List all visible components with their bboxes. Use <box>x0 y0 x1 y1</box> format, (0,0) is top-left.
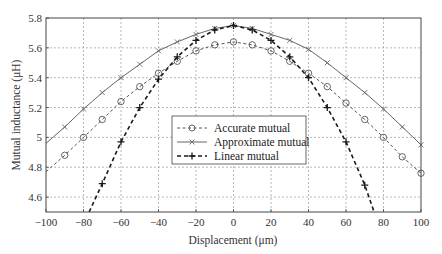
x-tick-label: −60 <box>112 216 130 228</box>
x-marker-icon <box>400 124 405 129</box>
x-marker-icon <box>362 90 367 95</box>
plus-marker-icon <box>361 182 368 189</box>
y-tick-label: 5.4 <box>28 72 42 84</box>
x-marker-icon <box>156 48 161 53</box>
x-marker-icon <box>287 38 292 43</box>
x-tick-label: −80 <box>75 216 93 228</box>
x-tick-label: 0 <box>231 216 237 228</box>
plus-marker-icon <box>324 104 331 111</box>
circle-marker-icon <box>99 116 105 122</box>
plus-marker-icon <box>343 138 350 145</box>
x-tick-label: 80 <box>378 216 390 228</box>
plus-marker-icon <box>118 138 125 145</box>
y-tick-label: 5.8 <box>28 12 42 24</box>
line-chart: −100−80−60−40−20020406080100 4.64.855.25… <box>0 0 442 254</box>
plus-marker-icon <box>155 76 162 83</box>
y-tick-label: 5.2 <box>28 102 42 114</box>
x-tick-label: 100 <box>413 216 430 228</box>
plus-marker-icon <box>211 26 218 33</box>
x-tick-label: −100 <box>35 216 58 228</box>
x-tick-label: 60 <box>341 216 353 228</box>
y-tick-label: 4.6 <box>28 191 42 203</box>
legend-label-approximate: Approximate mutual <box>214 136 310 149</box>
legend: Accurate mutual Approximate mutual Linea… <box>172 116 310 164</box>
x-marker-icon <box>137 62 142 67</box>
x-marker-icon <box>194 32 199 37</box>
legend-label-linear: Linear mutual <box>214 150 279 162</box>
plus-marker-icon <box>193 37 200 44</box>
x-axis-label: Displacement (μm) <box>189 234 278 247</box>
x-marker-icon <box>325 60 330 65</box>
x-marker-icon <box>269 32 274 37</box>
x-tick-label: 40 <box>303 216 315 228</box>
x-tick-label: −40 <box>150 216 168 228</box>
plus-marker-icon <box>99 180 106 187</box>
y-tick-label: 5 <box>37 131 43 143</box>
x-tick-label: −20 <box>187 216 205 228</box>
y-axis-label: Mutual inductance (μH) <box>10 59 23 170</box>
plus-marker-icon <box>249 26 256 33</box>
legend-label-accurate: Accurate mutual <box>214 122 290 134</box>
x-marker-icon <box>100 90 105 95</box>
y-tick-label: 5.6 <box>28 42 42 54</box>
y-tick-label: 4.8 <box>28 161 42 173</box>
x-tick-label: 20 <box>266 216 278 228</box>
x-marker-icon <box>62 124 67 129</box>
x-marker-icon <box>175 39 180 44</box>
